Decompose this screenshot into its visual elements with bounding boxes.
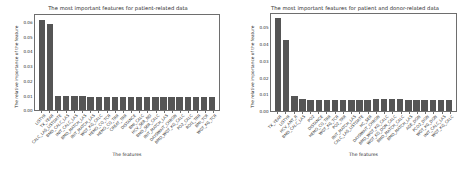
bar bbox=[176, 97, 182, 110]
bar bbox=[397, 99, 403, 111]
bar bbox=[193, 97, 199, 110]
bar bbox=[87, 97, 93, 111]
bar bbox=[168, 97, 174, 110]
bar bbox=[446, 100, 452, 111]
bar bbox=[71, 96, 77, 110]
bar bbox=[373, 99, 379, 111]
bar bbox=[413, 100, 419, 111]
bar bbox=[421, 100, 427, 111]
bar bbox=[332, 100, 338, 111]
bar bbox=[152, 97, 158, 110]
x-axis-label: The features bbox=[34, 152, 220, 157]
chart-title: The most important features for patient-… bbox=[0, 5, 236, 11]
bar bbox=[209, 97, 215, 110]
bar bbox=[55, 96, 61, 110]
y-axis-ticks: 0.000.010.020.030.040.050.06 bbox=[14, 14, 34, 111]
y-axis-ticks: 0.000.010.020.030.040.05 bbox=[250, 13, 270, 112]
bar bbox=[136, 97, 142, 110]
y-tick-label: 0.05 bbox=[23, 34, 32, 39]
bar bbox=[104, 97, 110, 110]
bar bbox=[160, 97, 166, 110]
bar bbox=[324, 100, 330, 111]
bar bbox=[438, 100, 444, 111]
y-tick-label: 0.01 bbox=[23, 93, 32, 98]
x-axis-label: The features bbox=[270, 152, 457, 157]
bar bbox=[79, 96, 85, 110]
bar bbox=[96, 97, 102, 110]
bar bbox=[299, 99, 305, 111]
bar-series bbox=[271, 14, 456, 111]
y-tick-label: 0.04 bbox=[23, 49, 32, 54]
bar bbox=[39, 20, 45, 110]
y-tick-label: 0.02 bbox=[259, 75, 268, 80]
bar bbox=[47, 24, 53, 110]
chart-title: The most important features for patient … bbox=[237, 5, 473, 11]
y-tick-label: 0.05 bbox=[259, 25, 268, 30]
figure-root: The most important features for patient-… bbox=[0, 0, 473, 169]
bar bbox=[291, 96, 297, 111]
y-tick-label: 0.06 bbox=[23, 20, 32, 25]
bar-series bbox=[35, 15, 219, 110]
bar bbox=[112, 97, 118, 110]
bar bbox=[283, 40, 289, 111]
y-tick-label: 0.00 bbox=[259, 109, 268, 114]
y-tick-label: 0.03 bbox=[23, 64, 32, 69]
bar bbox=[144, 97, 150, 110]
chart-panel-patient: The most important features for patient-… bbox=[0, 0, 236, 169]
bar bbox=[381, 99, 387, 111]
plot-area bbox=[270, 13, 457, 112]
y-tick-label: 0.03 bbox=[259, 58, 268, 63]
bar bbox=[405, 100, 411, 111]
plot-area bbox=[34, 14, 220, 111]
y-tick-label: 0.04 bbox=[259, 42, 268, 47]
bar bbox=[120, 97, 126, 110]
y-tick-label: 0.02 bbox=[23, 78, 32, 83]
y-tick-label: 0.01 bbox=[259, 92, 268, 97]
bar bbox=[185, 97, 191, 110]
bar bbox=[348, 100, 354, 111]
chart-panel-patient-donor: The most important features for patient … bbox=[237, 0, 473, 169]
bar bbox=[275, 18, 281, 111]
bar bbox=[364, 100, 370, 111]
bar bbox=[316, 100, 322, 111]
bar bbox=[63, 96, 69, 110]
bar bbox=[340, 100, 346, 111]
bar bbox=[356, 100, 362, 111]
bar bbox=[430, 100, 436, 111]
bar bbox=[389, 99, 395, 111]
y-tick-label: 0.00 bbox=[23, 108, 32, 113]
bar bbox=[128, 97, 134, 110]
bar bbox=[201, 97, 207, 110]
bar bbox=[307, 100, 313, 111]
